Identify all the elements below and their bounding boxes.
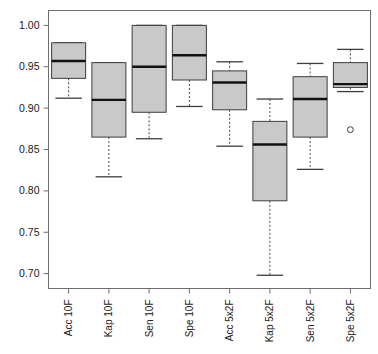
x-axis-label: Sen 5x2F — [305, 300, 316, 343]
y-tick-label: 0.90 — [19, 102, 40, 114]
x-axis-label: Spe 5x2F — [345, 300, 356, 343]
y-tick-label: 0.95 — [19, 60, 40, 72]
x-axis-label: Kap 10F — [103, 300, 114, 338]
x-axis-label: Sen 10F — [144, 300, 155, 338]
x-axis-label: Kap 5x2F — [264, 300, 275, 343]
y-tick-label: 0.70 — [19, 267, 40, 279]
y-tick-label: 0.80 — [19, 184, 40, 196]
box-iqr — [213, 71, 247, 110]
box-iqr — [293, 77, 327, 137]
box-iqr — [172, 25, 206, 80]
boxplot-canvas: 0.700.750.800.850.900.951.00 Acc 10FKap … — [0, 0, 378, 354]
box-iqr — [132, 25, 166, 112]
y-tick-label: 0.75 — [19, 226, 40, 238]
y-tick-label: 0.85 — [19, 143, 40, 155]
boxplot-figure: 0.700.750.800.850.900.951.00 Acc 10FKap … — [0, 0, 378, 354]
x-axis-label: Acc 5x2F — [224, 300, 235, 342]
y-tick-label: 1.00 — [19, 19, 40, 31]
box-iqr — [253, 121, 287, 200]
x-axis-label: Acc 10F — [63, 300, 74, 337]
x-axis-label: Spe 10F — [184, 300, 195, 338]
